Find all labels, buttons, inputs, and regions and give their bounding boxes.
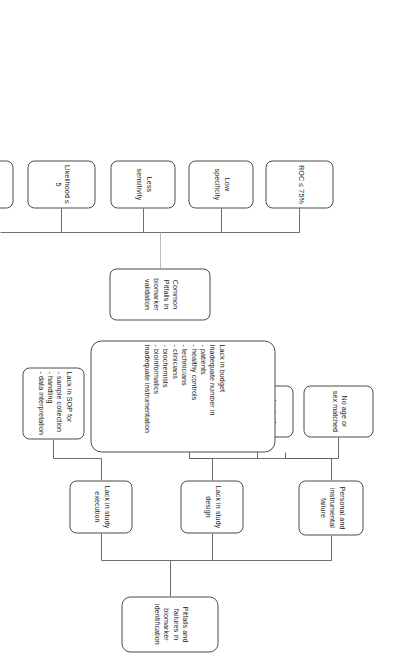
node-roc[interactable]: ROC ≤ 75%	[265, 160, 333, 208]
node-root-identification[interactable]: Pitfalls and failures in biomarker ident…	[121, 596, 218, 652]
node-roc-label: ROC ≤ 75%	[294, 165, 303, 204]
rotated-diagram-wrapper: Pitfalls and failures in biomarker ident…	[0, 0, 395, 667]
connector-lines	[0, 0, 395, 667]
node-less-sensitivity-label: Less sensitivity	[133, 164, 152, 204]
node-lack-in-budget[interactable]: Lack in budget Inadequate number in - pa…	[90, 340, 275, 452]
node-lack-in-study-design-label: Lack in study design	[202, 484, 221, 529]
node-low-specificity-label: Low specificity	[211, 164, 230, 204]
node-personal-instrumental-failure[interactable]: Personal and instrumental failure	[298, 480, 363, 535]
node-lack-in-study-execution-label: Lack in study execution	[91, 484, 110, 529]
node-lack-in-study-design[interactable]: Lack in study design	[180, 480, 243, 533]
node-less-sensitivity[interactable]: Less sensitivity	[110, 160, 175, 208]
node-root-common-pitfalls-label: Common Pitfalls in biomarker validation	[141, 272, 178, 316]
node-lack-in-sop-label: Lack in SOP for - sample collection - ha…	[34, 371, 71, 435]
node-lack-in-budget-label: Lack in budget Inadequate number in - pa…	[140, 344, 224, 433]
node-lack-in-study-execution[interactable]: Lack in study execution	[69, 480, 132, 533]
node-low-specificity[interactable]: Low specificity	[188, 160, 253, 208]
node-root-common-pitfalls[interactable]: Common Pitfalls in biomarker validation	[109, 268, 210, 320]
node-lack-in-sop[interactable]: Lack in SOP for - sample collection - ha…	[22, 367, 84, 439]
node-odd-ratio[interactable]: Odd ratio ≤ 1	[0, 160, 13, 208]
node-likelihood-label: Likelihood ≤ 5	[52, 164, 71, 204]
node-no-age-or-sex-matched[interactable]: No age or sex matched	[303, 385, 373, 437]
node-likelihood[interactable]: Likelihood ≤ 5	[27, 160, 95, 208]
flowchart-canvas: Pitfalls and failures in biomarker ident…	[0, 0, 395, 667]
node-no-age-or-sex-matched-label: No age or sex matched	[329, 389, 348, 433]
node-root-identification-label: Pitfalls and failures in biomarker ident…	[151, 600, 188, 648]
node-personal-instrumental-failure-label: Personal and instrumental failure	[316, 484, 344, 531]
